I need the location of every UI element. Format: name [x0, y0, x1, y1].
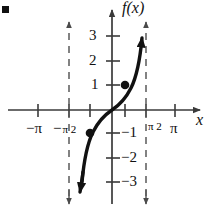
fraction-denominator: 2	[71, 123, 77, 135]
graph-canvas	[0, 0, 209, 212]
function-curve-lower-arrow	[80, 172, 83, 192]
x-tick-label-neg-pi: −π	[26, 121, 42, 136]
y-tick-label-neg3: −3	[121, 174, 137, 189]
tangent-function-graph: f(x) x 3 2 1 −1 −2 −3 −π − π 2 π 2 π	[0, 0, 209, 212]
y-axis-label: f(x)	[122, 0, 144, 16]
point-pos-quarter-pi	[121, 81, 130, 90]
y-tick-label-neg1: −1	[121, 125, 137, 140]
fraction-denominator: 2	[156, 120, 162, 132]
fraction-numerator: π	[148, 120, 154, 132]
y-tick-label-2: 2	[89, 53, 97, 68]
fraction-numerator: π	[62, 123, 68, 135]
fraction-pi-over-2: π 2	[62, 123, 76, 135]
x-axis-label: x	[196, 112, 203, 128]
fraction-pi-over-2-positive: π 2	[148, 120, 162, 132]
point-neg-quarter-pi	[86, 129, 95, 138]
x-tick-label-pi: π	[170, 121, 178, 136]
y-tick-label-1: 1	[91, 77, 99, 92]
y-tick-label-3: 3	[89, 28, 97, 43]
y-tick-label-neg2: −2	[121, 150, 137, 165]
x-tick-label-half-pi: π 2	[148, 120, 162, 132]
x-tick-label-neg-half-pi: − π 2	[53, 120, 76, 137]
neg-sign: −	[53, 120, 61, 137]
